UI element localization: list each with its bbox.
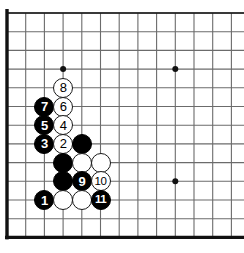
stone-black [53, 153, 73, 173]
stone-white-move-2: 2 [53, 134, 73, 154]
stone-move-number: 2 [60, 137, 67, 150]
stone-move-number: 8 [60, 81, 67, 94]
stone-move-number: 7 [41, 100, 48, 113]
stone-move-number: 1 [41, 193, 48, 206]
stone-black-move-3: 3 [34, 134, 54, 154]
go-board-diagram: 8765432910111 [0, 0, 244, 253]
stone-black-move-11: 11 [91, 190, 111, 210]
stone-black [72, 134, 92, 154]
stone-black-move-9: 9 [72, 171, 92, 191]
stone-white-move-10: 10 [91, 171, 111, 191]
stone-move-number: 9 [78, 174, 85, 187]
stone-white-move-6: 6 [53, 97, 73, 117]
stone-white [72, 153, 92, 173]
stone-black-move-5: 5 [34, 115, 54, 135]
stone-move-number: 10 [95, 175, 107, 187]
stone-white-move-8: 8 [53, 78, 73, 98]
stone-white [72, 190, 92, 210]
stone-black [53, 171, 73, 191]
stone-move-number: 3 [41, 137, 48, 150]
stone-layer: 8765432910111 [0, 0, 244, 253]
stone-move-number: 5 [41, 118, 48, 131]
stone-white [91, 153, 111, 173]
stone-white-move-4: 4 [53, 115, 73, 135]
stone-white [53, 190, 73, 210]
stone-move-number: 6 [60, 100, 67, 113]
stone-black-move-7: 7 [34, 97, 54, 117]
stone-black-move-1: 1 [34, 190, 54, 210]
stone-move-number: 11 [95, 194, 106, 206]
stone-move-number: 4 [60, 118, 67, 131]
